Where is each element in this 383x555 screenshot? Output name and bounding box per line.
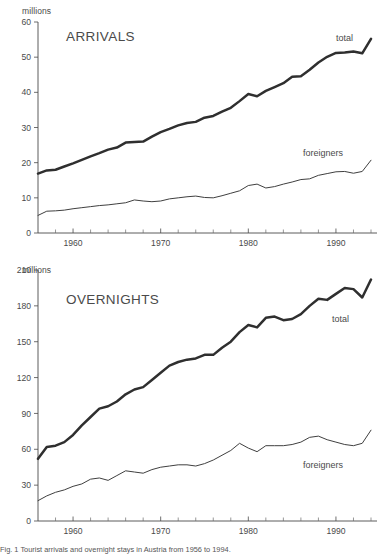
y-axis-tick-label: 90 bbox=[21, 409, 31, 419]
chart-panel-arrivals: millions ARRIVALS total foreigners 01020… bbox=[0, 0, 383, 262]
figure-caption: Fig. 1 Tourist arrivals and overnight st… bbox=[0, 545, 383, 554]
y-axis-tick-label: 150 bbox=[17, 337, 32, 347]
chart-svg-overnights: 03060901201501802101960197019801990 bbox=[0, 262, 383, 555]
y-axis-tick-label: 30 bbox=[21, 123, 31, 133]
chart-svg-arrivals: 01020304050601960197019801990 bbox=[0, 0, 383, 262]
x-axis-tick-label: 1990 bbox=[326, 526, 345, 536]
y-axis-tick-label: 40 bbox=[21, 87, 31, 97]
x-axis-tick-label: 1960 bbox=[63, 526, 82, 536]
x-axis-tick-label: 1980 bbox=[239, 238, 258, 248]
y-axis-tick-label: 0 bbox=[26, 228, 31, 238]
y-axis-tick-label: 50 bbox=[21, 52, 31, 62]
y-axis-tick-label: 180 bbox=[17, 301, 32, 311]
x-axis-tick-label: 1970 bbox=[151, 526, 170, 536]
y-axis-tick-label: 60 bbox=[21, 444, 31, 454]
x-axis-tick-label: 1960 bbox=[63, 238, 82, 248]
chart-panel-overnights: millions OVERNIGHTS total foreigners 030… bbox=[0, 262, 383, 555]
series-line-foreigners bbox=[38, 430, 371, 501]
y-axis-tick-label: 210 bbox=[17, 265, 32, 275]
x-axis-tick-label: 1970 bbox=[151, 238, 170, 248]
y-axis-tick-label: 120 bbox=[17, 373, 32, 383]
y-axis-tick-label: 0 bbox=[26, 516, 31, 526]
series-line-foreigners bbox=[38, 160, 371, 215]
y-axis-tick-label: 30 bbox=[21, 480, 31, 490]
x-axis-tick-label: 1990 bbox=[326, 238, 345, 248]
y-axis-tick-label: 20 bbox=[21, 158, 31, 168]
x-axis-tick-label: 1980 bbox=[239, 526, 258, 536]
y-axis-tick-label: 10 bbox=[21, 193, 31, 203]
y-axis-tick-label: 60 bbox=[21, 17, 31, 27]
series-line-total bbox=[38, 39, 371, 174]
series-line-total bbox=[38, 280, 371, 459]
